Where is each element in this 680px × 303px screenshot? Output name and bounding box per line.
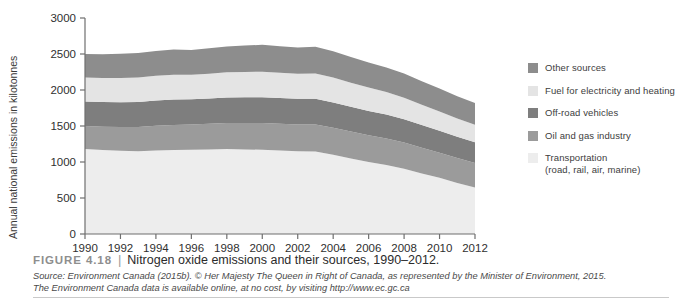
legend-swatch-fuel-electricity-heating xyxy=(528,86,538,96)
figure-container: Annual national emissions in kilotonnes … xyxy=(0,0,680,303)
legend-swatch-other-sources xyxy=(528,63,538,73)
y-axis-title-group: Annual national emissions in kilotonnes xyxy=(7,56,19,239)
figure-title: Nitrogen oxide emissions and their sourc… xyxy=(127,253,439,267)
y-tick-label: 3000 xyxy=(50,12,76,24)
legend-swatch-transportation xyxy=(528,153,538,163)
y-tick-label: 1500 xyxy=(50,120,76,132)
y-tick-label: 500 xyxy=(57,192,76,204)
y-tick-label: 1000 xyxy=(50,156,76,168)
chart-plot-region: Annual national emissions in kilotonnes … xyxy=(0,6,505,254)
y-tick-label: 0 xyxy=(70,228,76,240)
legend-swatch-oil-and-gas-industry xyxy=(528,131,538,141)
x-axis-ticks: 1990199219941996199820002002200420062008… xyxy=(72,234,488,254)
legend-item: Oil and gas industry xyxy=(528,130,676,142)
y-axis-ticks: 050010001500200025003000 xyxy=(50,12,85,240)
legend-item: Off-road vehicles xyxy=(528,107,676,119)
area-series-group xyxy=(85,45,475,234)
chart-legend: Other sourcesFuel for electricity and he… xyxy=(528,62,676,186)
caption-divider: | xyxy=(118,252,121,267)
y-tick-label: 2500 xyxy=(50,48,76,60)
legend-item-label: Other sources xyxy=(545,62,606,74)
source-line-2: The Environment Canada data is available… xyxy=(33,282,669,294)
source-line-1: Source: Environment Canada (2015b). © He… xyxy=(33,270,669,282)
y-axis-title: Annual national emissions in kilotonnes xyxy=(7,56,19,239)
legend-item-label: Transportation (road, rail, air, marine) xyxy=(545,152,640,175)
legend-item: Other sources xyxy=(528,62,676,74)
y-tick-label: 2000 xyxy=(50,84,76,96)
figure-caption: FIGURE 4.18 | Nitrogen oxide emissions a… xyxy=(33,252,669,267)
stacked-area-chart: Annual national emissions in kilotonnes … xyxy=(0,6,505,254)
bottom-divider-rule xyxy=(33,297,669,298)
legend-item: Fuel for electricity and heating xyxy=(528,85,676,97)
legend-item-label: Fuel for electricity and heating xyxy=(545,85,675,97)
caption-block: FIGURE 4.18 | Nitrogen oxide emissions a… xyxy=(33,252,669,294)
legend-swatch-off-road-vehicles xyxy=(528,108,538,118)
figure-number: FIGURE 4.18 xyxy=(33,254,112,266)
legend-item-label: Oil and gas industry xyxy=(545,130,631,142)
legend-item: Transportation (road, rail, air, marine) xyxy=(528,152,676,175)
legend-item-label: Off-road vehicles xyxy=(545,107,618,119)
